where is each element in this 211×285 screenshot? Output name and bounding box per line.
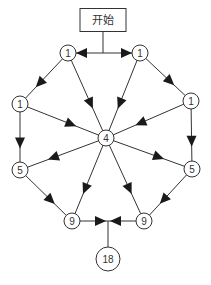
arrowhead-icon bbox=[15, 138, 25, 149]
edge-line bbox=[20, 138, 106, 170]
arrowhead-icon bbox=[76, 48, 87, 58]
node-label: 1 bbox=[137, 48, 143, 59]
node-label: 5 bbox=[17, 165, 23, 176]
node-label: 5 bbox=[189, 164, 195, 175]
arrowhead-icon bbox=[48, 151, 60, 160]
edge-line bbox=[72, 138, 106, 221]
edge-line bbox=[106, 138, 144, 221]
node-label: 1 bbox=[65, 48, 71, 59]
edge-line bbox=[191, 101, 192, 169]
node-right-1: 1 bbox=[183, 93, 199, 109]
node-bottom-left-9: 9 bbox=[64, 213, 80, 229]
node-label: 9 bbox=[141, 216, 147, 227]
node-label: 1 bbox=[17, 99, 23, 110]
start-label: 开始 bbox=[92, 13, 114, 27]
start-node: 开始 bbox=[80, 9, 126, 32]
node-right-5: 5 bbox=[184, 161, 200, 177]
node-label: 9 bbox=[69, 216, 75, 227]
arrowhead-icon bbox=[95, 216, 106, 226]
node-top-right-1: 1 bbox=[132, 45, 148, 61]
edge-line bbox=[20, 170, 72, 221]
node-left-5: 5 bbox=[12, 162, 28, 178]
edge-line bbox=[144, 169, 192, 221]
arrowhead-icon bbox=[152, 150, 164, 159]
node-label: 1 bbox=[188, 96, 194, 107]
node-top-left-1: 1 bbox=[60, 45, 76, 61]
node-result-18: 18 bbox=[96, 247, 120, 271]
arrowhead-icon bbox=[110, 216, 121, 226]
edge-line bbox=[106, 138, 192, 169]
node-left-1: 1 bbox=[12, 96, 28, 112]
node-bottom-right-9: 9 bbox=[136, 213, 152, 229]
edge-line bbox=[20, 53, 68, 104]
arrowhead-icon bbox=[187, 136, 197, 147]
node-label: 4 bbox=[103, 133, 109, 144]
node-label: 18 bbox=[102, 254, 114, 265]
edge-line bbox=[140, 53, 191, 101]
flow-diagram: 开始 11114559918 bbox=[0, 0, 211, 285]
node-center-4: 4 bbox=[98, 130, 114, 146]
arrowhead-icon bbox=[121, 48, 132, 58]
